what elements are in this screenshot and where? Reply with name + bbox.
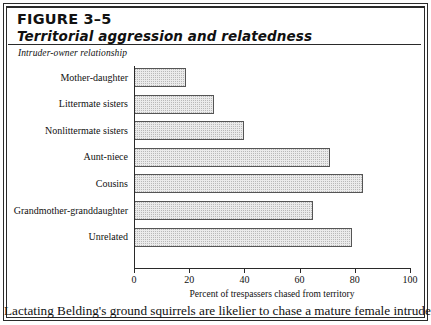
figure-panel: FIGURE 3–5 Territorial aggression and re…: [0, 0, 431, 325]
x-axis-tick-label: 80: [335, 274, 375, 285]
x-axis-tick: [244, 269, 245, 273]
x-axis-title: Percent of trespassers chased from terri…: [134, 289, 410, 299]
category-label: Mother-daughter: [2, 72, 128, 83]
x-axis-tick: [189, 269, 190, 273]
bar: [134, 121, 244, 140]
x-axis-tick: [300, 269, 301, 273]
y-axis-line: [134, 66, 135, 268]
bar-chart-plot: Mother-daughterLittermate sistersNonlitt…: [0, 0, 431, 325]
category-label: Grandmother-granddaughter: [2, 205, 128, 216]
figure-caption: Lactating Belding's ground squirrels are…: [4, 303, 431, 318]
x-axis-tick-label: 20: [169, 274, 209, 285]
x-axis-tick-label: 40: [224, 274, 264, 285]
x-axis-tick: [355, 269, 356, 273]
x-axis-tick-label: 0: [114, 274, 154, 285]
category-label: Aunt-niece: [2, 151, 128, 162]
category-label: Nonlittermate sisters: [2, 125, 128, 136]
bar: [134, 174, 363, 193]
bar: [134, 148, 330, 167]
bar: [134, 201, 313, 220]
category-label: Cousins: [2, 178, 128, 189]
x-axis-tick: [410, 269, 411, 273]
bar: [134, 95, 214, 114]
bar: [134, 68, 186, 87]
category-label: Littermate sisters: [2, 98, 128, 109]
x-axis-line: [134, 268, 411, 269]
bar: [134, 228, 352, 247]
x-axis-tick-label: 60: [280, 274, 320, 285]
x-axis-tick-label: 100: [390, 274, 430, 285]
category-label: Unrelated: [2, 231, 128, 242]
x-axis-tick: [134, 269, 135, 273]
